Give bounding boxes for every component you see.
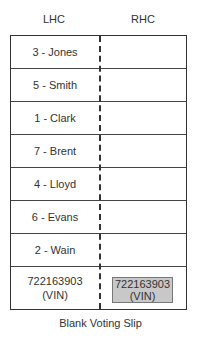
lhc-vin-number: 722163903 [27,274,82,288]
lhc-vin: 722163903 (VIN) [11,267,99,309]
rhc-vin-box: 722163903 (VIN) [112,277,173,303]
lhc-header: LHC [10,13,98,25]
rhc-vin-number: 722163903 [113,278,172,290]
rhc-header: RHC [99,13,187,25]
candidate-label: 3 - Jones [11,36,99,68]
rhc-vin-label: (VIN) [113,290,172,302]
perforation-divider [99,36,101,309]
candidate-label: 2 - Wain [11,234,99,266]
candidate-label: 1 - Clark [11,102,99,134]
lhc-vin-label: (VIN) [27,288,82,302]
candidate-label: 4 - Lloyd [11,168,99,200]
caption: Blank Voting Slip [0,317,201,329]
candidate-label: 6 - Evans [11,201,99,233]
candidate-label: 5 - Smith [11,69,99,101]
voting-slip: 3 - Jones 5 - Smith 1 - Clark 7 - Brent … [10,35,187,310]
candidate-label: 7 - Brent [11,135,99,167]
